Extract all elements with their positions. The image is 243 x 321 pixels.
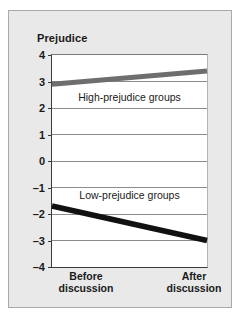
series-line-1 bbox=[52, 71, 207, 84]
y-axis-tick-label: –4 bbox=[33, 261, 45, 273]
y-axis-tick-label: –2 bbox=[33, 208, 45, 220]
y-axis-tick-label: 0 bbox=[39, 155, 45, 167]
series-annotation-2: Low-prejudice groups bbox=[79, 189, 179, 201]
series-annotation-1: High-prejudice groups bbox=[78, 91, 181, 103]
chart-panel: Prejudice 43210–1–2–3–4 High-prejudice g… bbox=[8, 10, 232, 308]
x-axis-label-after: After discussion bbox=[157, 270, 231, 294]
x-axis-label-after-line1: After bbox=[157, 270, 231, 282]
x-axis-label-after-line2: discussion bbox=[157, 282, 231, 294]
chart-figure: Prejudice 43210–1–2–3–4 High-prejudice g… bbox=[0, 0, 243, 321]
x-axis-label-before: Before discussion bbox=[49, 270, 123, 294]
y-axis-tick-label: 1 bbox=[39, 129, 45, 141]
y-axis-tick-label: –3 bbox=[33, 235, 45, 247]
y-axis-tick bbox=[48, 267, 52, 268]
series-layer bbox=[52, 55, 207, 267]
y-axis-tick-label: 3 bbox=[39, 76, 45, 88]
series-line-2 bbox=[52, 206, 207, 240]
x-axis-label-before-line1: Before bbox=[49, 270, 123, 282]
y-axis-tick-label: 2 bbox=[39, 102, 45, 114]
plot-area: 43210–1–2–3–4 High-prejudice groupsLow-p… bbox=[51, 54, 208, 268]
y-axis-tick-label: –1 bbox=[33, 182, 45, 194]
x-axis-label-before-line2: discussion bbox=[49, 282, 123, 294]
y-axis-title: Prejudice bbox=[37, 32, 87, 44]
y-axis-tick-label: 4 bbox=[39, 49, 45, 61]
